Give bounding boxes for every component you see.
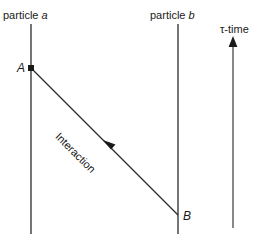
particle-b-label-prefix: particle <box>150 9 189 21</box>
particle-a-label-prefix: particle <box>3 9 42 21</box>
event-label-a: A <box>17 62 25 74</box>
worldline-label-particle-b: particle b <box>150 10 195 21</box>
diagram-canvas <box>0 0 263 240</box>
event-label-b: B <box>183 210 191 222</box>
spacetime-interaction-diagram: particle a particle b τ-time A B Interac… <box>0 0 263 240</box>
tau-label-rest: -time <box>224 23 248 35</box>
interaction-arrowhead-icon <box>103 140 116 150</box>
time-axis-label: τ-time <box>220 24 249 35</box>
time-axis-arrowhead-icon <box>229 36 238 47</box>
event-marker-a <box>28 65 34 71</box>
particle-a-label-symbol: a <box>42 9 48 21</box>
worldline-label-particle-a: particle a <box>3 10 48 21</box>
particle-b-label-symbol: b <box>189 9 195 21</box>
